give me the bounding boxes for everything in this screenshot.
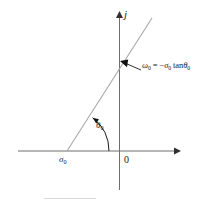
pole-diagram-figure: j 0 σ0 θ0 ω0 = −σ0 tanθ0 (0, 0, 202, 206)
figure-canvas (0, 0, 202, 206)
theta-zero-subscript: 0 (100, 125, 103, 131)
origin-label: 0 (124, 155, 129, 165)
real-axis-arrowhead-icon (174, 147, 181, 154)
equation-leader-line (126, 64, 141, 71)
sigma-zero-label: σ0 (59, 155, 67, 165)
omega-zero-equation-label: ω0 = −σ0 tanθ0 (142, 61, 190, 71)
sigma-zero-subscript: 0 (63, 159, 66, 165)
imaginary-axis-arrowhead-icon (116, 11, 123, 18)
imaginary-axis-label: j (124, 9, 127, 20)
asymptote-line (67, 18, 152, 151)
equation-operator: = − (151, 60, 164, 70)
equation-theta-subscript: 0 (187, 65, 190, 71)
equation-tan-operator: tan (171, 60, 183, 70)
theta-zero-label: θ0 (96, 121, 103, 131)
